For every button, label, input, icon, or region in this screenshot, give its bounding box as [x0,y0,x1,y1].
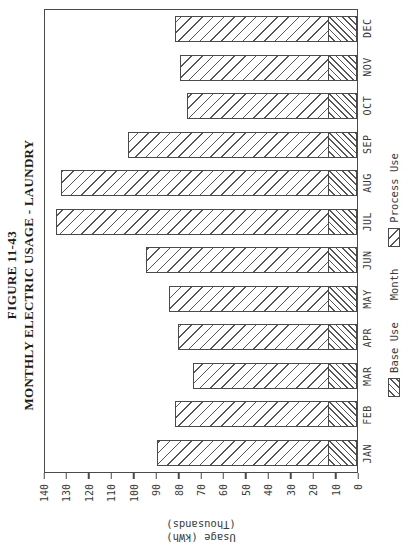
stacked-bar-aug [61,170,357,196]
y-tick-mark [66,473,68,479]
bar-slot-oct [45,87,357,126]
legend: Base Use Month Process Use [388,0,400,550]
process-use-segment [169,286,328,312]
bar-slot-feb [45,395,357,434]
y-tick-mark [200,473,202,479]
process-use-segment [180,55,328,81]
bar-slot-nov [45,49,357,88]
y-tick-label: 50 [241,484,252,496]
stacked-bar-jan [157,440,357,466]
chart-title-block: FIGURE 11-43 MONTHLY ELECTRIC USAGE - LA… [4,0,37,550]
y-tick-label: 0 [353,484,364,490]
y-tick-mark [335,473,337,479]
y-tick-label: 130 [61,484,72,502]
stacked-bar-jul [56,209,357,235]
bar-slot-apr [45,318,357,357]
bar-series [45,10,357,472]
y-tick-label: 30 [286,484,297,496]
base-use-segment [328,55,357,81]
process-use-segment [187,93,328,119]
y-tick-mark [111,473,113,479]
process-use-segment [157,440,328,466]
y-tick-mark [133,473,135,479]
stacked-bar-sep [128,132,357,158]
y-tick-mark [155,473,157,479]
x-tick-label-apr: APR [362,318,373,357]
stacked-bar-oct [187,93,357,119]
base-use-segment [328,363,357,389]
stacked-bar-feb [175,401,357,427]
base-use-segment [328,286,357,312]
base-use-segment [328,132,357,158]
process-use-segment [146,247,328,273]
stacked-bar-nov [180,55,357,81]
process-use-segment [56,209,327,235]
figure-number: FIGURE 11-43 [4,0,20,550]
bar-slot-jan [45,434,357,473]
stacked-bar-mar [193,363,357,389]
y-tick-mark [43,473,45,479]
base-use-segment [328,247,357,273]
x-tick-label-nov: NOV [362,48,373,87]
y-tick-mark [245,473,247,479]
y-tick-label: 120 [84,484,95,502]
bar-slot-dec [45,10,357,49]
y-tick-label: 100 [129,484,140,502]
process-use-segment [128,132,328,158]
rotated-chart-page: FIGURE 11-43 MONTHLY ELECTRIC USAGE - LA… [0,0,419,550]
x-tick-label-aug: AUG [362,164,373,203]
base-use-segment [328,401,357,427]
y-tick-mark [178,473,180,479]
stacked-bar-jun [146,247,357,273]
y-tick-mark [312,473,314,479]
x-tick-label-sep: SEP [362,125,373,164]
y-tick-label: 20 [308,484,319,496]
x-tick-label-oct: OCT [362,86,373,125]
process-use-segment [61,170,328,196]
base-use-segment [328,170,357,196]
x-axis-labels: JANFEBMARAPRMAYJUNJULAUGSEPOCTNOVDEC [362,9,373,473]
legend-label-process: Process Use [388,153,400,223]
bar-slot-mar [45,357,357,396]
base-use-hatch-swatch [388,378,400,397]
stacked-bar-may [169,286,357,312]
x-axis-title: Month [388,269,400,301]
x-tick-label-jun: JUN [362,241,373,280]
base-use-segment [328,93,357,119]
stacked-bar-dec [175,16,357,42]
y-tick-mark [88,473,90,479]
x-tick-label-feb: FEB [362,396,373,435]
y-tick-label: 10 [331,484,342,496]
stacked-bar-apr [178,324,357,350]
bar-slot-sep [45,126,357,165]
chart-title: MONTHLY ELECTRIC USAGE - LAUNDRY [21,0,37,550]
y-tick-mark [268,473,270,479]
process-use-segment [178,324,328,350]
process-use-segment [175,16,328,42]
y-tick-label: 90 [151,484,162,496]
base-use-segment [328,324,357,350]
y-tick-mark [223,473,225,479]
process-use-segment [193,363,328,389]
bar-slot-aug [45,164,357,203]
y-axis-ticks: 0102030405060708090100110120130140 [44,473,358,550]
base-use-segment [328,16,357,42]
y-tick-label: 80 [174,484,185,496]
bar-slot-jul [45,203,357,242]
y-tick-label: 40 [263,484,274,496]
base-use-segment [328,440,357,466]
y-tick-label: 140 [39,484,50,502]
x-tick-label-may: MAY [362,280,373,319]
process-use-segment [175,401,328,427]
x-tick-label-jan: JAN [362,434,373,473]
legend-item-process: Process Use [388,153,400,247]
y-tick-mark [290,473,292,479]
y-tick-label: 70 [196,484,207,496]
bar-slot-jun [45,241,357,280]
process-use-hatch-swatch [388,228,400,247]
legend-item-base: Base Use [388,322,400,397]
y-tick-label: 60 [218,484,229,496]
y-tick-mark [357,473,359,479]
x-tick-label-dec: DEC [362,9,373,48]
legend-label-base: Base Use [388,322,400,373]
